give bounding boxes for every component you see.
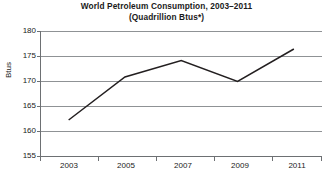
- data-series-line: [69, 49, 294, 120]
- y-tick-marks-group: [37, 32, 41, 157]
- gridlines-group: [41, 32, 323, 132]
- chart-container: World Petroleum Consumption, 2003–2011 (…: [0, 0, 333, 180]
- plot-area: [0, 0, 333, 180]
- x-tick-marks-group: [41, 157, 322, 162]
- axes-group: [41, 31, 323, 157]
